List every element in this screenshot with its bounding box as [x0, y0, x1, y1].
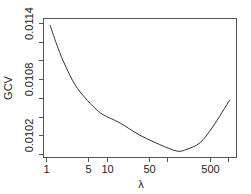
y-axis-title: GCV [2, 75, 14, 100]
y-axis: 0.01020.01080.0114 [23, 7, 44, 154]
plot-frame [44, 19, 237, 158]
y-tick-label: 0.0108 [23, 63, 35, 97]
x-axis: 151050500 [43, 158, 228, 176]
x-tick-label: 50 [143, 163, 155, 175]
x-tick-label: 10 [101, 163, 113, 175]
y-tick-label: 0.0102 [23, 119, 35, 153]
x-axis-title: λ [138, 178, 144, 190]
gcv-curve [50, 25, 230, 151]
x-tick-label: 1 [43, 163, 49, 175]
x-tick-label: 500 [201, 163, 219, 175]
y-tick-label: 0.0114 [23, 7, 35, 40]
gcv-line-chart: 151050500 0.01020.01080.0114 λ GCV [0, 0, 251, 194]
x-tick-label: 5 [85, 163, 91, 175]
